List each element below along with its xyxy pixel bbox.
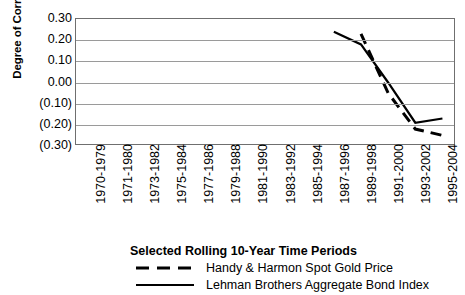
y-tick-label: (0.10) [0,97,72,109]
x-tick-label: 1987-1996 [339,144,352,234]
gridline [76,61,454,62]
y-tick-label: (0.20) [0,118,72,130]
legend-label-bond: Lehman Brothers Aggregate Bond Index [200,278,429,292]
x-tick-label: 1991-2000 [393,144,406,234]
x-tick-label: 1981-1990 [257,144,270,234]
x-tick-label: 1995-2004 [447,144,460,234]
x-tick-label: 1993-2002 [420,144,433,234]
plot-area [75,18,455,145]
x-tick-label: 1989-1998 [366,144,379,234]
x-tick-label: 1977-1986 [203,144,216,234]
x-axis-tick-labels: 1970-19791971-19801973-19821975-19841977… [75,146,455,241]
y-tick-label: 0.10 [0,54,72,66]
x-tick-label: 1970-1979 [95,144,108,234]
gridline [76,40,454,41]
gridline [76,104,454,105]
y-axis-tick-labels: 0.300.200.100.00(0.10)(0.20)(0.30) [0,0,72,160]
y-tick-label: 0.30 [0,12,72,24]
chart-legend: Selected Rolling 10-Year Time Periods Ha… [0,244,465,293]
x-tick-label: 1975-1984 [176,144,189,234]
x-tick-label: 1983-1992 [285,144,298,234]
y-tick-label: (0.30) [0,139,72,151]
legend-label-gold: Handy & Harmon Spot Gold Price [200,261,393,275]
x-tick-label: 1979-1988 [230,144,243,234]
x-tick-label: 1971-1980 [122,144,135,234]
legend-item-bond: Lehman Brothers Aggregate Bond Index [0,276,465,293]
gridline [76,83,454,84]
x-tick-label: 1973-1982 [149,144,162,234]
series-line [334,32,443,123]
y-tick-label: 0.00 [0,76,72,88]
solid-line-swatch-icon [130,278,200,292]
correlation-line-chart: Degree of Correlation 0.300.200.100.00(0… [0,0,465,295]
legend-title: Selected Rolling 10-Year Time Periods [0,244,465,259]
gridline [76,125,454,126]
legend-item-gold: Handy & Harmon Spot Gold Price [0,259,465,276]
y-tick-label: 0.20 [0,33,72,45]
x-tick-label: 1985-1994 [312,144,325,234]
dashed-line-swatch-icon [130,261,200,275]
